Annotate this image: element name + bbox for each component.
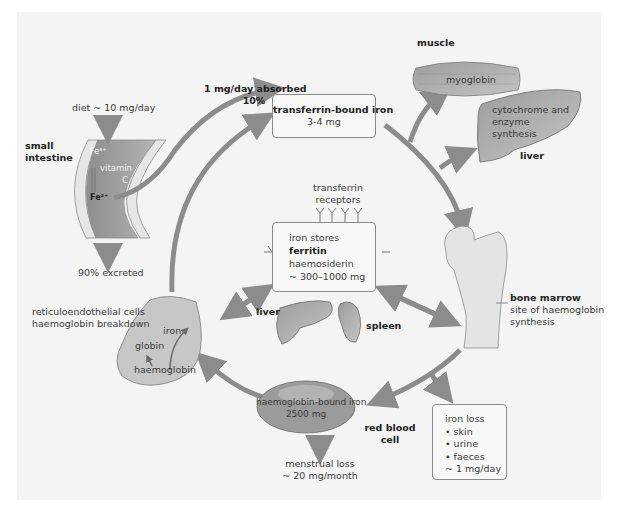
vitamin-line1: vitamin bbox=[98, 162, 134, 174]
menstrual-label: menstrual loss ~ 20 mg/month bbox=[270, 458, 370, 482]
iron-loss-text: iron loss • skin • urine • faeces ~ 1 mg… bbox=[445, 413, 501, 476]
reticulo-line1: reticuloendothelial cells bbox=[32, 306, 149, 318]
diet-label: diet ~ 10 mg/day bbox=[72, 102, 155, 114]
transferrin-amount: 3-4 mg bbox=[273, 116, 375, 128]
re-globin-label: globin bbox=[135, 340, 164, 352]
muscle-label: muscle bbox=[417, 37, 455, 49]
liver-synthesis-line1: cytochrome and bbox=[492, 104, 569, 116]
to-liver-arrow bbox=[440, 154, 464, 168]
reticuloendothelial-label: reticuloendothelial cells haemoglobin br… bbox=[32, 306, 149, 330]
stores-amount: ~ 300–1000 mg bbox=[289, 270, 365, 283]
stores-ferritin: ferritin bbox=[289, 244, 365, 257]
marrow-to-rbc-arrow bbox=[380, 350, 460, 400]
rbc-text: haemoglobin-bound iron 2500 mg bbox=[256, 396, 356, 420]
fe3-label: Fe³⁺ bbox=[90, 146, 107, 158]
small-intestine-label: small intestine bbox=[25, 140, 73, 164]
bone-marrow-line1: site of haemoglobin bbox=[510, 304, 604, 316]
rbc-line2: 2500 mg bbox=[256, 408, 356, 420]
iron-stores-box: iron stores ferritin haemosiderin ~ 300–… bbox=[272, 222, 376, 292]
myoglobin-label: myoglobin bbox=[446, 74, 496, 86]
receptors-line2: receptors bbox=[298, 194, 378, 206]
receptors-label: transferrin receptors bbox=[298, 182, 378, 206]
stores-haemosiderin: haemosiderin bbox=[289, 257, 365, 270]
liver-synthesis-label: liver bbox=[520, 150, 544, 162]
menstrual-line1: menstrual loss bbox=[270, 458, 370, 470]
reticulo-line2: haemoglobin breakdown bbox=[32, 318, 149, 330]
to-muscle-arrow bbox=[410, 95, 440, 142]
transferrin-title: transferrin-bound iron bbox=[273, 104, 375, 116]
transferrin-box: transferrin-bound iron 3-4 mg bbox=[272, 94, 376, 138]
transferrin-to-marrow-arrow bbox=[385, 125, 462, 225]
marrow-stores-arrow bbox=[388, 292, 448, 320]
vitamin-line2: C bbox=[98, 174, 134, 186]
iron-stores-text: iron stores ferritin haemosiderin ~ 300–… bbox=[289, 231, 365, 283]
re-iron-label: iron bbox=[163, 325, 181, 337]
iron-loss-item: • urine bbox=[445, 438, 501, 451]
spleen-organ-graphic bbox=[338, 302, 360, 342]
liver-synthesis-line3: synthesis bbox=[492, 128, 569, 140]
re-haemoglobin-label: haemoglobin bbox=[134, 364, 196, 376]
iron-loss-title: iron loss bbox=[445, 413, 501, 426]
iron-loss-item: • skin bbox=[445, 426, 501, 439]
iron-loss-item: • faeces bbox=[445, 451, 501, 464]
bone-marrow-line2: synthesis bbox=[510, 316, 604, 328]
small-intestine-graphic bbox=[74, 140, 166, 238]
rbc-to-re-arrow bbox=[206, 362, 266, 398]
fe2-label: Fe²⁺ bbox=[90, 192, 108, 204]
iron-loss-box: iron loss • skin • urine • faeces ~ 1 mg… bbox=[432, 404, 507, 480]
small-intestine-line1: small bbox=[25, 140, 73, 152]
vitamin-c-label: vitamin C bbox=[98, 162, 134, 186]
liver-synthesis-line2: enzyme bbox=[492, 116, 569, 128]
excreted-label: 90% excreted bbox=[78, 267, 144, 279]
rbc-label-line1: red blood bbox=[360, 422, 420, 434]
liver-synthesis-text: cytochrome and enzyme synthesis bbox=[492, 104, 569, 140]
rbc-label-line2: cell bbox=[360, 434, 420, 446]
spleen-organ-label: spleen bbox=[366, 320, 401, 332]
small-intestine-line2: intestine bbox=[25, 152, 73, 164]
receptors-line1: transferrin bbox=[298, 182, 378, 194]
rbc-label: red blood cell bbox=[360, 422, 420, 446]
bone-marrow-label: bone marrow site of haemoglobin synthesi… bbox=[510, 292, 604, 328]
bone-marrow-graphic bbox=[445, 226, 507, 348]
iron-loss-amount: ~ 1 mg/day bbox=[445, 463, 501, 476]
re-to-transferrin-arrow bbox=[172, 120, 262, 292]
stores-line1: iron stores bbox=[289, 231, 365, 244]
liver-organ-label: liver bbox=[256, 306, 280, 318]
to-iron-loss-arrow bbox=[430, 372, 444, 392]
liver-organ-graphic bbox=[277, 301, 333, 344]
rbc-line1: haemoglobin-bound iron bbox=[256, 396, 356, 408]
menstrual-line2: ~ 20 mg/month bbox=[270, 470, 370, 482]
bone-marrow-title: bone marrow bbox=[510, 292, 604, 304]
